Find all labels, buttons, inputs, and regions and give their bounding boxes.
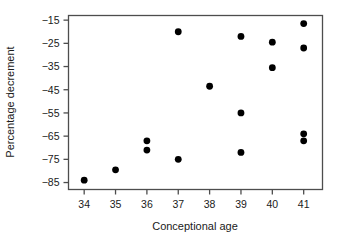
- x-tick-label: 37: [172, 198, 184, 210]
- plot-canvas: −15−25−35−45−55−65−75−85 343536373839404…: [0, 0, 345, 239]
- y-tick-label: −85: [42, 176, 60, 188]
- y-tick-label: −25: [42, 37, 60, 49]
- data-point: [238, 110, 245, 117]
- data-point: [269, 64, 276, 71]
- x-tick-label: 34: [78, 198, 90, 210]
- y-tick-label: −55: [42, 107, 60, 119]
- data-point: [175, 28, 182, 35]
- y-tick-label: −35: [42, 60, 60, 72]
- data-point: [300, 137, 307, 144]
- y-tick-label: −75: [42, 153, 60, 165]
- scatter-plot-figure: −15−25−35−45−55−65−75−85 343536373839404…: [0, 0, 345, 239]
- x-tick-label: 41: [298, 198, 310, 210]
- data-point: [238, 33, 245, 40]
- plot-frame: [69, 16, 323, 190]
- y-axis-title: Percentage decrement: [4, 46, 16, 157]
- data-point: [175, 156, 182, 163]
- data-point: [144, 137, 151, 144]
- data-point: [269, 39, 276, 46]
- data-point: [300, 20, 307, 27]
- y-tick-label: −15: [42, 14, 60, 26]
- y-axis-tick-labels: −15−25−35−45−55−65−75−85: [42, 14, 60, 188]
- x-tick-label: 36: [141, 198, 153, 210]
- x-tick-label: 39: [235, 198, 247, 210]
- x-tick-label: 38: [204, 198, 216, 210]
- data-points-layer: [81, 20, 307, 183]
- x-axis-title: Conceptional age: [152, 220, 238, 232]
- data-point: [300, 45, 307, 52]
- x-axis-tick-labels: 3435363738394041: [78, 198, 309, 210]
- data-point: [238, 149, 245, 156]
- x-tick-label: 35: [110, 198, 122, 210]
- data-point: [144, 147, 151, 154]
- data-point: [300, 130, 307, 137]
- y-tick-label: −65: [42, 130, 60, 142]
- x-tick-label: 40: [266, 198, 278, 210]
- data-point: [206, 83, 213, 90]
- data-point: [112, 166, 119, 173]
- data-point: [81, 177, 88, 184]
- x-axis-ticks: [84, 190, 304, 195]
- y-tick-label: −45: [42, 84, 60, 96]
- y-axis-ticks: [64, 20, 69, 182]
